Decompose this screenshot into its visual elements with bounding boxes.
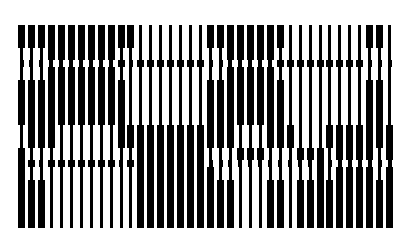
bar-segment: [388, 48, 391, 60]
bar-segment: [157, 160, 164, 167]
bar-segment: [227, 25, 234, 48]
bar-segment: [120, 180, 123, 228]
bar-segment: [209, 67, 212, 80]
bar-segment: [167, 160, 174, 167]
bar-segment: [319, 80, 322, 125]
bar-segment: [277, 80, 284, 125]
bar-segment: [108, 160, 115, 167]
bar-segment: [137, 148, 144, 160]
bar-segment: [108, 67, 115, 80]
bar-segment: [219, 167, 222, 180]
bar-segment: [267, 180, 274, 228]
bar-segment: [277, 25, 284, 48]
bar-segment: [118, 25, 125, 48]
bar-segment: [207, 25, 214, 48]
bar-segment: [289, 167, 292, 180]
bar-segment: [237, 148, 244, 160]
bar-segment: [309, 25, 312, 48]
bar-segment: [189, 67, 192, 80]
bar-segment: [60, 167, 63, 180]
bar-segment: [110, 125, 113, 148]
bar-segment: [209, 48, 212, 60]
bar-segment: [68, 48, 75, 60]
bar-segment: [358, 80, 361, 125]
bar-segment: [159, 67, 162, 80]
bar-segment: [199, 48, 202, 60]
bar-segment: [18, 25, 25, 48]
bar-segment: [257, 48, 264, 60]
bar-segment: [70, 125, 73, 148]
bar-segment: [169, 67, 172, 80]
bar-segment: [159, 25, 162, 48]
bar-segment: [40, 167, 43, 180]
bar-segment: [319, 48, 322, 60]
bar-segment: [179, 80, 182, 125]
bar-segment: [20, 48, 23, 60]
bar-segment: [100, 180, 103, 228]
bar-segment: [229, 167, 232, 180]
bar-segment: [90, 148, 93, 160]
bar-segment: [326, 180, 333, 228]
bar-segment: [227, 180, 234, 228]
bar-segment: [378, 148, 381, 160]
bar-segment: [139, 25, 142, 48]
bar-segment: [70, 148, 73, 160]
bar-segment: [346, 167, 353, 180]
bar-segment: [388, 160, 392, 167]
bar-segment: [219, 160, 223, 167]
bar-segment: [118, 80, 125, 125]
bar-segment: [187, 125, 194, 148]
bar-segment: [249, 167, 252, 180]
op-art-canvas: [0, 0, 413, 243]
bar-segment: [157, 60, 164, 67]
bar-segment: [18, 167, 25, 180]
bar-segment: [18, 148, 25, 160]
bar-segment: [58, 48, 65, 60]
bar-segment: [376, 80, 383, 125]
bar-segment: [199, 80, 202, 125]
bar-segment: [346, 180, 353, 228]
bar-segment: [197, 180, 204, 228]
bar-segment: [90, 125, 93, 148]
bar-segment: [48, 125, 55, 148]
bar-segment: [149, 80, 152, 125]
bar-segment: [167, 167, 174, 180]
bar-segment: [147, 148, 154, 160]
bar-segment: [39, 160, 43, 167]
bar-segment: [149, 48, 152, 60]
bar-segment: [307, 148, 314, 160]
bar-segment: [38, 180, 45, 228]
bar-segment: [189, 80, 192, 125]
bar-segment: [58, 25, 65, 48]
bar-segment: [139, 67, 142, 80]
bar-segment: [298, 160, 302, 167]
bar-segment: [108, 25, 115, 48]
bar-segment: [279, 167, 282, 180]
bar-segment: [317, 160, 324, 167]
bar-segment: [279, 148, 282, 160]
bar-segment: [88, 48, 95, 60]
bar-segment: [79, 60, 83, 67]
bar-segment: [247, 48, 254, 60]
bar-segment: [207, 180, 214, 228]
bar-segment: [299, 48, 302, 60]
bar-segment: [299, 80, 302, 125]
bar-segment: [48, 25, 55, 48]
bar-segment: [317, 60, 324, 67]
bar-segment: [326, 60, 333, 67]
bar-segment: [58, 160, 65, 167]
bar-segment: [358, 67, 361, 80]
bar-segment: [388, 25, 391, 48]
bar-segment: [159, 48, 162, 60]
bar-segment: [239, 180, 242, 228]
bar-segment: [38, 125, 45, 148]
bar-segment: [289, 48, 292, 60]
bar-segment: [376, 25, 383, 48]
bar-segment: [356, 167, 363, 180]
bar-segment: [289, 25, 292, 48]
bar-segment: [147, 125, 154, 148]
bar-segment: [326, 125, 333, 148]
bar-segment: [18, 180, 25, 228]
bar-segment: [277, 60, 284, 67]
bar-segment: [386, 167, 393, 180]
